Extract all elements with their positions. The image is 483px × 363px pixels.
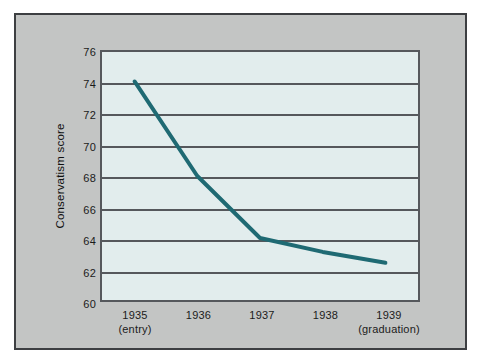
y-axis-tick-label: 66 (83, 204, 96, 216)
y-axis-tick-label: 72 (83, 109, 96, 121)
x-axis-tick-year: 1939 (358, 308, 420, 322)
x-axis-tick-note: (entry) (118, 322, 151, 336)
x-axis-tick-note: (graduation) (358, 322, 420, 336)
x-axis-tick-label: 1936 (186, 308, 211, 322)
x-axis-tick-year: 1935 (118, 308, 151, 322)
plot-area: 767472706866646260 1935(entry)1936193719… (100, 50, 420, 302)
x-axis-tick-year: 1936 (186, 308, 211, 322)
y-axis-tick-label: 74 (83, 78, 96, 90)
figure-panel: Conservatism score 767472706866646260 19… (14, 13, 467, 350)
x-axis-tick-label: 1935(entry) (118, 308, 151, 336)
x-axis-tick-year: 1937 (249, 308, 274, 322)
y-axis-tick-label: 68 (83, 172, 96, 184)
y-axis-tick-label: 70 (83, 141, 96, 153)
y-axis-tick-label: 76 (83, 46, 96, 58)
y-axis-tick-label: 62 (83, 267, 96, 279)
y-axis-label: Conservatism score (52, 50, 68, 302)
y-axis-tick-label: 64 (83, 235, 96, 247)
x-axis-tick-label: 1939(graduation) (358, 308, 420, 336)
y-axis-tick-label: 60 (83, 298, 96, 310)
x-axis-tick-year: 1938 (313, 308, 338, 322)
conservatism-score-line (135, 81, 386, 262)
data-series-line (102, 52, 418, 300)
x-axis-tick-label: 1937 (249, 308, 274, 322)
x-axis-tick-label: 1938 (313, 308, 338, 322)
y-axis-label-text: Conservatism score (54, 123, 66, 228)
